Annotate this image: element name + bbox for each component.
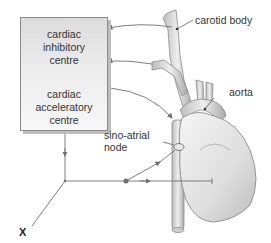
aorta-label: aorta [229, 86, 253, 98]
sa-node-label-line2: node [104, 141, 127, 153]
inhibitory-line-1: cardiac [21, 28, 107, 41]
sa-node-label-line1: sino-atrial [104, 129, 150, 141]
junction-dot [64, 180, 67, 183]
cardiac-centre-box: cardiac inhibitory centre cardiac accele… [20, 17, 108, 131]
acceleratory-line-1: cardiac [21, 88, 107, 101]
inhibitory-line-2: inhibitory [21, 41, 107, 54]
heart [179, 112, 256, 222]
inhibitory-line-3: centre [21, 54, 107, 67]
ganglion-dot [124, 179, 129, 184]
sa-node-marker [174, 144, 184, 151]
carotid-body-dot [176, 28, 179, 31]
cardiac-inhibitory-centre-label: cardiac inhibitory centre [21, 28, 107, 67]
carotid-body-label: carotid body [195, 14, 252, 26]
x-label: X [19, 226, 26, 238]
cardiac-acceleratory-centre-label: cardiac acceleratory centre [21, 88, 107, 127]
acceleratory-line-3: centre [21, 114, 107, 127]
acceleratory-line-2: acceleratory [21, 101, 107, 114]
cardiac-control-diagram: cardiac inhibitory centre cardiac accele… [0, 0, 271, 243]
aorta-dot [204, 108, 207, 111]
